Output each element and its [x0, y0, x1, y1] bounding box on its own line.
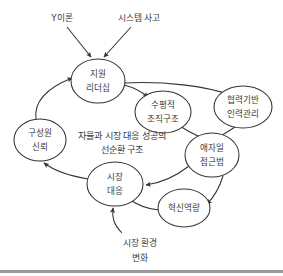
edge-agile-to-market-response	[146, 166, 189, 185]
causal-loop-diagram: 지원 리더십 수평적 조직구조 협력기반 인력관리 구성원 신뢰 애자일	[0, 0, 283, 276]
node-collaborative-hr-shape[interactable]	[214, 86, 272, 128]
label-systems-thinking: 시스템 사고	[118, 12, 161, 23]
node-horizontal-structure-label-line1: 수평적	[151, 99, 175, 110]
node-member-trust-label-line1: 구성원	[28, 128, 52, 138]
node-agile-approach-label-line2: 접근법	[200, 156, 224, 167]
diagram-canvas: 지원 리더십 수평적 조직구조 협력기반 인력관리 구성원 신뢰 애자일	[0, 0, 283, 276]
label-market-environment-change-line2: 변화	[132, 253, 148, 263]
edge-leadership-to-horizontal-structure	[124, 85, 148, 97]
diagram-caption: 자율과 시장 대응 성공의 선순환 구조	[78, 130, 167, 155]
caption-line1: 자율과 시장 대응 성공의	[78, 130, 167, 141]
node-supportive-leadership-shape[interactable]	[71, 59, 125, 103]
node-supportive-leadership[interactable]: 지원 리더십	[71, 59, 125, 103]
node-innovation-capability-label-line1: 혁신역량	[168, 202, 200, 213]
node-market-response-label-line2: 대응	[107, 186, 123, 196]
node-member-trust[interactable]: 구성원 신뢰	[14, 119, 66, 161]
node-agile-approach-label-line1: 애자일	[200, 143, 224, 153]
edge-agile-to-innovation	[207, 176, 223, 204]
node-agile-approach-shape[interactable]	[185, 133, 239, 177]
edge-leadership-to-collaborative-hr	[124, 83, 231, 95]
edge-theory-y-to-leadership	[67, 27, 91, 57]
node-member-trust-shape[interactable]	[14, 119, 66, 161]
label-theory-y: Y이론	[50, 13, 72, 23]
edge-systems-thinking-to-leadership	[104, 27, 131, 57]
node-horizontal-structure-shape[interactable]	[135, 91, 191, 133]
node-collaborative-hr-label-line1: 협력기반	[227, 94, 259, 105]
node-collaborative-hr-label-line2: 인력관리	[227, 108, 259, 119]
label-market-environment-change-line1: 시장 환경	[123, 237, 158, 248]
node-innovation-capability[interactable]: 혁신역량	[158, 189, 210, 227]
node-horizontal-structure-label-line2: 조직구조	[147, 114, 179, 124]
node-market-response-label-line1: 시장	[107, 172, 123, 182]
footer-divider	[0, 270, 283, 273]
node-supportive-leadership-label-line1: 지원	[90, 69, 106, 79]
node-market-response[interactable]: 시장 대응	[87, 162, 143, 206]
node-agile-approach[interactable]: 애자일 접근법	[185, 133, 239, 177]
node-market-response-shape[interactable]	[87, 162, 143, 206]
edge-member-trust-to-leadership	[36, 78, 72, 119]
edge-market-environment-change-to-market-response	[113, 208, 122, 233]
edge-market-response-to-member-trust	[44, 163, 88, 179]
node-supportive-leadership-label-line2: 리더십	[86, 83, 110, 93]
node-horizontal-structure[interactable]: 수평적 조직구조	[135, 91, 191, 133]
node-member-trust-label-line2: 신뢰	[32, 142, 48, 152]
caption-line2: 선순환 구조	[101, 144, 144, 155]
node-collaborative-hr[interactable]: 협력기반 인력관리	[214, 86, 272, 128]
